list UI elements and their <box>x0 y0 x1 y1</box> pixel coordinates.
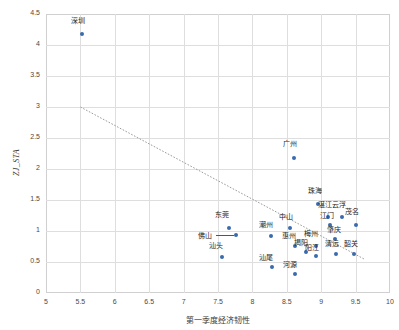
gridline-vertical <box>218 14 219 293</box>
y-tick-label: 1 <box>16 226 40 233</box>
x-tick-label: 9 <box>306 298 336 305</box>
gridline-vertical <box>184 14 185 293</box>
x-tick-label: 6.5 <box>134 298 164 305</box>
x-tick-label: 5 <box>31 298 61 305</box>
y-tick-label: 1.5 <box>16 195 40 202</box>
data-point-label: 江门 <box>320 210 334 220</box>
y-tick-label: 3.5 <box>16 71 40 78</box>
x-tick-label: 8.5 <box>272 298 302 305</box>
data-point <box>314 254 318 258</box>
data-point-label: 潮州 <box>259 219 273 229</box>
y-tick-label: 4.5 <box>16 9 40 16</box>
data-point-label: 湛江 <box>318 199 332 209</box>
data-point-label: 东莞 <box>215 209 229 219</box>
data-point-label: 广州 <box>283 138 297 148</box>
data-point-label: 韶关 <box>344 238 358 248</box>
x-tick-label: 7 <box>169 298 199 305</box>
gridline-vertical <box>252 14 253 293</box>
scatter-chart: 深圳广州珠海湛江云浮江门茂名东莞中山佛山潮州肇庆惠州梅州清远韶关揭阳阳江汕头汕尾… <box>0 0 399 330</box>
data-point <box>354 223 358 227</box>
x-tick-label: 8 <box>237 298 267 305</box>
x-tick-label: 10 <box>375 298 399 305</box>
data-point-label: 河源 <box>283 259 297 269</box>
data-point-label: 阳江 <box>305 242 319 252</box>
x-axis-title: 第一季度经济韧性 <box>148 314 288 325</box>
data-point-label: 深圳 <box>71 15 85 25</box>
data-point-label: 茂名 <box>345 206 359 216</box>
data-point-label: 中山 <box>279 211 293 221</box>
data-point-label: 云浮 <box>332 199 346 209</box>
x-tick-label: 7.5 <box>203 298 233 305</box>
gridline-vertical <box>80 14 81 293</box>
gridline-vertical <box>356 14 357 293</box>
y-axis-title: ZJ_STA <box>12 148 21 175</box>
gridline-vertical <box>149 14 150 293</box>
data-point-label: 珠海 <box>308 185 322 195</box>
data-point <box>270 265 274 269</box>
gridline-vertical <box>115 14 116 293</box>
label-leader-line <box>216 235 234 236</box>
gridline-vertical <box>287 14 288 293</box>
y-tick-label: 0 <box>16 288 40 295</box>
x-tick-label: 5.5 <box>65 298 95 305</box>
gridline-vertical <box>321 14 322 293</box>
y-tick-label: 3 <box>16 102 40 109</box>
data-point <box>269 234 273 238</box>
data-point-label: 清远 <box>325 238 339 248</box>
y-tick-label: 2.5 <box>16 133 40 140</box>
x-tick-label: 6 <box>100 298 130 305</box>
y-tick-label: 4 <box>16 40 40 47</box>
data-point-label: 汕尾 <box>259 252 273 262</box>
data-point-label: 汕头 <box>209 240 223 250</box>
y-tick-label: 0.5 <box>16 257 40 264</box>
data-point <box>227 226 231 230</box>
data-point-label: 肇庆 <box>327 224 341 234</box>
x-tick-label: 9.5 <box>341 298 371 305</box>
